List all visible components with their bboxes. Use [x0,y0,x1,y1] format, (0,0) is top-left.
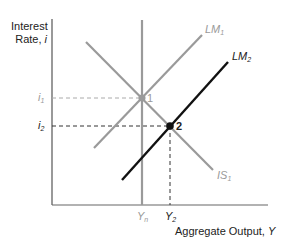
is1-label: IS1 [217,170,231,182]
is1-sub: 1 [227,175,231,182]
y2-sub: 2 [172,216,176,223]
point-2-label: 2 [176,121,182,132]
i1-sub: 1 [40,97,44,104]
lm2-sub: 2 [247,56,251,63]
y2-tick-label: Y2 [165,211,176,223]
x-axis-variable: Y [268,225,275,237]
point-1-label: 1 [147,93,153,104]
i2-tick-label: i2 [38,120,44,132]
x-axis-label: Aggregate Output, Y [175,226,275,237]
lm1-name: LM [205,23,220,35]
lm2-label: LM2 [232,51,251,63]
yn-tick-label: Yn [137,211,148,223]
y-axis-label-line1: Interest [11,20,47,33]
equilibrium-point-2 [166,122,174,130]
y-axis-label-line2-wrap: Rate, i [11,33,47,46]
yn-sub: n [144,216,148,223]
is-lm-diagram: Interest Rate, i Aggregate Output, Y i1 … [0,0,285,250]
i2-sub: 2 [40,125,44,132]
lm2-curve [122,62,228,180]
y-axis-label-line2: Rate, [15,33,44,45]
equilibrium-point-1 [139,95,146,102]
is1-name: IS [217,169,227,181]
x-axis-label-text: Aggregate Output, [175,225,268,237]
lm1-sub: 1 [220,29,224,36]
lm2-name: LM [232,50,247,62]
lm1-label: LM1 [205,24,224,36]
i1-tick-label: i1 [38,92,44,104]
y-axis-variable: i [45,33,47,45]
y-axis-label: Interest Rate, i [11,20,47,46]
